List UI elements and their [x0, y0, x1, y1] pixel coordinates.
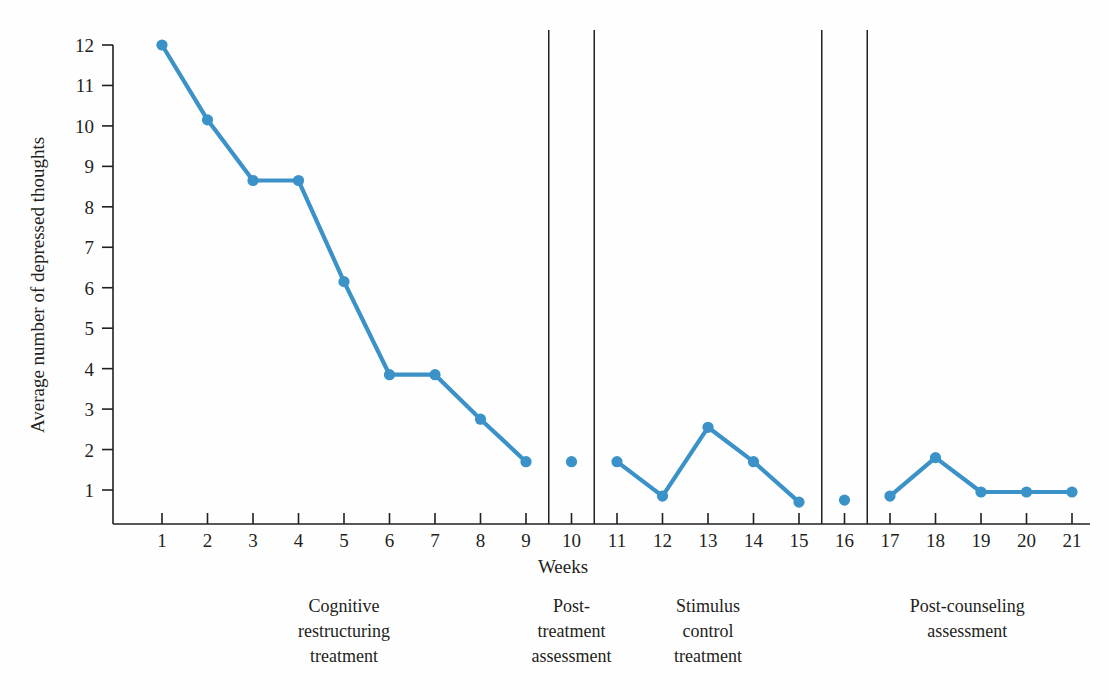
data-point [384, 369, 395, 380]
y-axis-title: Average number of depressed thoughts [27, 137, 48, 433]
data-point [1066, 486, 1077, 497]
x-axis-title: Weeks [538, 556, 588, 577]
phase-annotation-cognitive-restructuring-treatment: Cognitiverestructuringtreatment [298, 596, 390, 666]
data-point [930, 452, 941, 463]
y-tick-label: 4 [85, 359, 95, 380]
x-tick-label: 12 [653, 530, 672, 551]
x-tick-label: 1 [157, 530, 167, 551]
y-tick-label: 10 [75, 116, 94, 137]
data-point [338, 276, 349, 287]
phase-annotation-line: assessment [927, 621, 1007, 641]
x-tick-label: 13 [699, 530, 718, 551]
phase-annotation-post-treatment-assessment: Post-treatmentassessment [532, 596, 612, 666]
phase-annotation-line: control [683, 621, 734, 641]
data-point [202, 114, 213, 125]
phase-annotation-stimulus-control-treatment: Stimuluscontroltreatment [674, 596, 742, 666]
x-axis: 123456789101112131415161718192021 [113, 513, 1090, 551]
series-line-cognitive-restructuring-treatment [162, 45, 526, 462]
x-tick-label: 8 [476, 530, 486, 551]
data-point [839, 495, 850, 506]
phase-annotation-line: treatment [674, 646, 742, 666]
y-tick-marks [102, 45, 113, 490]
x-tick-label: 18 [926, 530, 945, 551]
data-series-markers [156, 39, 1077, 507]
phase-annotation-line: Stimulus [676, 596, 740, 616]
phase-divider-lines [549, 30, 868, 524]
y-tick-labels: 123456789101112 [75, 35, 95, 501]
y-tick-label: 12 [75, 35, 94, 56]
phase-annotation-post-counseling-assessment: Post-counselingassessment [910, 596, 1025, 641]
phase-annotation-line: treatment [538, 621, 606, 641]
phase-annotation-line: Post- [553, 596, 590, 616]
data-point [520, 456, 531, 467]
x-tick-label: 11 [608, 530, 626, 551]
x-tick-label: 20 [1017, 530, 1036, 551]
x-tick-label: 7 [430, 530, 440, 551]
data-point [975, 486, 986, 497]
line-chart: 123456789101112 123456789101112131415161… [0, 0, 1109, 700]
y-tick-label: 2 [85, 440, 95, 461]
x-tick-label: 3 [248, 530, 258, 551]
x-tick-label: 9 [521, 530, 531, 551]
data-point [611, 456, 622, 467]
x-tick-labels: 123456789101112131415161718192021 [157, 530, 1081, 551]
data-point [156, 39, 167, 50]
x-tick-marks [162, 513, 1072, 524]
data-point [748, 456, 759, 467]
y-axis: 123456789101112 [75, 35, 113, 524]
x-tick-label: 16 [835, 530, 854, 551]
x-tick-label: 15 [790, 530, 809, 551]
phase-annotation-line: assessment [532, 646, 612, 666]
data-point [1021, 486, 1032, 497]
x-tick-label: 5 [339, 530, 349, 551]
data-point [293, 175, 304, 186]
data-point [566, 456, 577, 467]
data-point [429, 369, 440, 380]
x-tick-label: 19 [972, 530, 991, 551]
y-tick-label: 5 [85, 318, 95, 339]
phase-annotation-line: treatment [310, 646, 378, 666]
data-point [793, 497, 804, 508]
x-tick-label: 4 [294, 530, 304, 551]
y-tick-label: 7 [85, 237, 95, 258]
phase-annotations: CognitiverestructuringtreatmentPost-trea… [298, 596, 1025, 666]
x-tick-label: 2 [203, 530, 213, 551]
phase-annotation-line: restructuring [298, 621, 390, 641]
figure-container: 123456789101112 123456789101112131415161… [0, 0, 1109, 700]
y-tick-label: 6 [85, 278, 95, 299]
x-tick-label: 6 [385, 530, 395, 551]
y-tick-label: 11 [76, 75, 94, 96]
data-point [884, 490, 895, 501]
data-point [247, 175, 258, 186]
data-point [475, 414, 486, 425]
x-tick-label: 10 [562, 530, 581, 551]
phase-annotation-line: Post-counseling [910, 596, 1025, 616]
x-tick-label: 21 [1063, 530, 1082, 551]
x-tick-label: 14 [744, 530, 764, 551]
y-tick-label: 1 [85, 480, 95, 501]
data-point [657, 490, 668, 501]
y-tick-label: 3 [85, 399, 95, 420]
data-series-lines [162, 45, 1072, 502]
phase-annotation-line: Cognitive [309, 596, 380, 616]
series-line-stimulus-control-treatment [617, 427, 799, 502]
data-point [702, 422, 713, 433]
y-tick-label: 8 [85, 197, 95, 218]
x-tick-label: 17 [881, 530, 900, 551]
y-tick-label: 9 [85, 156, 95, 177]
